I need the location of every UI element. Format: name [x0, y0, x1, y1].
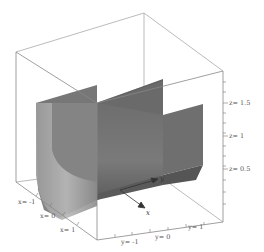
x-tick-minus1: x= -1: [18, 198, 36, 206]
surface: [36, 79, 203, 220]
z-tick-0.5: z= 0.5: [229, 165, 250, 173]
z-tick-1: z= 1: [229, 132, 244, 140]
x-tick-1: x= 1: [60, 226, 75, 234]
y-tick-0: y= 0: [154, 233, 170, 241]
z-axis-ticks: [223, 82, 228, 204]
y-tick-1: y= 1: [187, 223, 203, 231]
surface-plot: z= 1.5 z= 1 z= 0.5 x= -1 x= 0 x= 1 y= -1…: [0, 0, 264, 252]
z-tick-1.5: z= 1.5: [229, 99, 250, 107]
x-arrow-label: x: [146, 209, 150, 217]
y-tick-minus1: y= -1: [120, 238, 139, 246]
x-tick-0: x= 0: [40, 212, 55, 220]
